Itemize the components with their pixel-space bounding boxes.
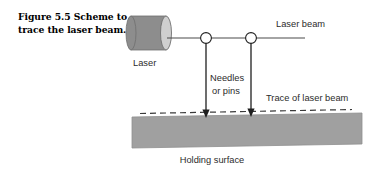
laser-cylinder-front-cap bbox=[161, 16, 172, 50]
label-trace-of-laser-beam: Trace of laser beam bbox=[266, 93, 349, 103]
trace-dashed-line bbox=[140, 110, 352, 114]
needle-1-head-circle bbox=[201, 33, 212, 44]
label-needles-line-2: or pins bbox=[212, 86, 240, 96]
label-holding-surface: Holding surface bbox=[180, 155, 245, 165]
laser-trace-diagram: Laser Laser beam Needles or pins Trace o… bbox=[0, 0, 375, 169]
holding-surface-slab bbox=[132, 113, 362, 148]
laser-cylinder-back-cap bbox=[126, 16, 136, 50]
label-laser-beam: Laser beam bbox=[276, 19, 325, 29]
needle-2-head-circle bbox=[246, 33, 257, 44]
figure-container: Figure 5.5 Scheme to trace the laser bea… bbox=[0, 0, 375, 169]
label-needles-line-1: Needles bbox=[210, 73, 244, 83]
label-laser: Laser bbox=[133, 58, 156, 68]
